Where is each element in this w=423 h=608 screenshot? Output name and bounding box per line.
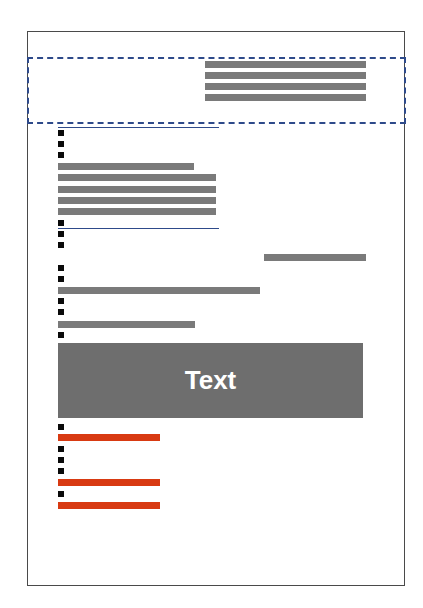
- text-block: Text: [58, 343, 363, 418]
- right-aligned-text-line: [264, 254, 366, 261]
- text-line: [58, 163, 194, 170]
- text-line: [58, 197, 216, 204]
- text-line: [58, 174, 216, 181]
- bullet-icon: [58, 220, 64, 226]
- text-line: [58, 287, 260, 294]
- header-text-line: [205, 94, 366, 101]
- header-text-line: [205, 83, 366, 90]
- bullet-icon: [58, 141, 64, 147]
- bullet-icon: [58, 457, 64, 463]
- header-text-line: [205, 72, 366, 79]
- bullet-icon: [58, 130, 64, 136]
- bullet-icon: [58, 298, 64, 304]
- emphasis-line: [58, 479, 160, 486]
- bullet-icon: [58, 446, 64, 452]
- bullet-icon: [58, 276, 64, 282]
- rule-line: [58, 127, 219, 128]
- text-line: [58, 321, 195, 328]
- text-line: [58, 186, 216, 193]
- bullet-icon: [58, 152, 64, 158]
- bullet-icon: [58, 265, 64, 271]
- text-block-label: Text: [185, 365, 237, 396]
- bullet-icon: [58, 309, 64, 315]
- bullet-icon: [58, 242, 64, 248]
- bullet-icon: [58, 468, 64, 474]
- bullet-icon: [58, 231, 64, 237]
- text-line: [58, 208, 216, 215]
- bullet-icon: [58, 424, 64, 430]
- emphasis-line: [58, 434, 160, 441]
- header-text-line: [205, 61, 366, 68]
- rule-line: [58, 228, 219, 229]
- bullet-icon: [58, 491, 64, 497]
- emphasis-line: [58, 502, 160, 509]
- bullet-icon: [58, 332, 64, 338]
